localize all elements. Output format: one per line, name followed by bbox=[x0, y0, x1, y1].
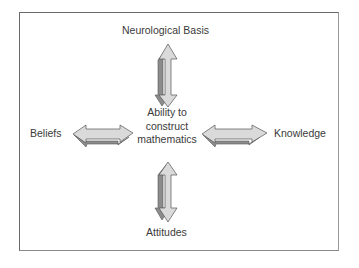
double-arrow-vertical-bottom-icon bbox=[155, 162, 177, 222]
double-arrow-horizontal-right-icon bbox=[202, 125, 267, 147]
double-arrow-horizontal-left-icon bbox=[73, 125, 133, 147]
arrows-layer bbox=[0, 0, 359, 268]
double-arrow-vertical-top-icon bbox=[155, 44, 177, 107]
